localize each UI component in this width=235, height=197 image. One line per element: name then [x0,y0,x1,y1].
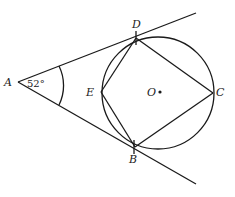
geometry-diagram: A 52° D E O C B [0,0,235,197]
center-dot-o [158,90,161,93]
label-e: E [85,86,94,99]
label-b: B [128,153,137,166]
angle-arc-a [59,66,64,105]
tangent-line-ad [18,13,196,82]
label-o: O [147,86,156,99]
tangent-line-ab [18,82,196,184]
angle-label-a: 52° [27,78,45,89]
label-a: A [3,76,12,89]
label-d: D [131,18,141,31]
segment-dc [136,38,213,93]
segment-cb [135,93,213,147]
segment-de [101,38,136,92]
label-c: C [216,86,225,99]
